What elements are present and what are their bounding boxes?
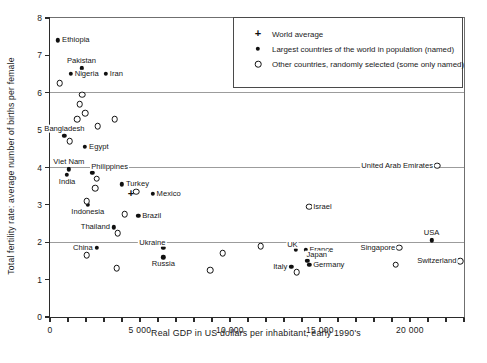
x-tick [229, 318, 230, 322]
y-tick-label: 7 [37, 51, 42, 60]
y-tick [45, 167, 50, 168]
x-tick [355, 318, 356, 322]
data-point [207, 267, 214, 274]
data-point [57, 80, 64, 87]
plus-glyph: + [255, 28, 261, 39]
point-label: Bangladesh [43, 124, 85, 132]
point-label: Japan [305, 251, 328, 259]
data-point [392, 261, 399, 268]
point-label: Iran [109, 70, 124, 78]
point-label: Viet Nam [52, 158, 85, 166]
x-tick [409, 318, 410, 322]
data-point-china [95, 246, 99, 250]
point-label: Turkey [125, 180, 150, 188]
x-tick-label: 0 [47, 326, 52, 335]
legend-label: Largest countries of the world in popula… [272, 45, 454, 54]
x-tick [193, 318, 194, 322]
grid-line [50, 242, 464, 243]
legend-label: Other countries, randomly selected (some… [272, 60, 464, 69]
x-tick [373, 318, 374, 322]
data-point-philippines [90, 171, 94, 175]
point-label: Thailand [80, 223, 111, 231]
data-point [94, 175, 101, 182]
data-point-turkey [120, 182, 124, 186]
y-tick [45, 242, 50, 243]
data-point [67, 138, 74, 145]
x-tick [85, 318, 86, 322]
fertility-gdp-scatter-figure: Total fertility rate: average number of … [0, 0, 487, 363]
data-point-brazil [136, 214, 140, 218]
x-tick [337, 318, 338, 322]
y-tick [45, 55, 50, 56]
x-tick [283, 318, 284, 322]
data-point [133, 188, 140, 195]
data-point [94, 123, 101, 130]
point-label: Ethiopia [61, 36, 90, 44]
x-tick [211, 318, 212, 322]
y-tick-label: 1 [37, 275, 42, 284]
x-tick [67, 318, 68, 322]
x-tick [427, 318, 428, 322]
y-tick [45, 92, 50, 93]
y-axis-title: Total fertility rate: average number of … [6, 57, 16, 274]
point-label: Italy [272, 262, 288, 270]
point-label: UK [286, 240, 299, 248]
data-point-mexico [150, 191, 154, 195]
x-tick [49, 318, 50, 322]
x-tick-label: 5 000 [129, 326, 152, 335]
point-label: Singapore [360, 244, 397, 252]
x-tick-label: 20 000 [396, 326, 424, 335]
grid-line [50, 92, 464, 93]
x-tick [175, 318, 176, 322]
x-tick [247, 318, 248, 322]
legend-row: +World average [234, 27, 462, 41]
data-point-nigeria [68, 72, 72, 76]
y-tick-label: 2 [37, 238, 42, 247]
x-tick [121, 318, 122, 322]
y-tick-label: 6 [37, 89, 42, 98]
point-label: Indonesia [70, 208, 105, 216]
y-tick [45, 279, 50, 280]
point-label: Egypt [88, 143, 109, 151]
point-label: Israel [312, 203, 333, 211]
x-tick [463, 318, 464, 322]
data-point-singapore [396, 245, 403, 252]
point-label: United Arab Emirates [360, 161, 434, 169]
point-label: Philippines [90, 163, 129, 171]
x-tick [265, 318, 266, 322]
data-point [220, 250, 227, 257]
data-point [121, 211, 128, 218]
data-point [293, 269, 300, 276]
y-tick [45, 204, 50, 205]
x-tick [319, 318, 320, 322]
data-point [82, 110, 89, 117]
y-tick [45, 17, 50, 18]
legend-row: Largest countries of the world in popula… [234, 42, 462, 56]
data-point-united-arab-emirates [434, 162, 441, 169]
data-point [257, 243, 264, 250]
point-label: Mexico [156, 189, 182, 197]
data-point-egypt [83, 145, 87, 149]
x-tick [139, 318, 140, 322]
x-tick [157, 318, 158, 322]
x-tick [103, 318, 104, 322]
data-point-viet-nam [67, 167, 71, 171]
data-point [92, 185, 99, 192]
y-tick-label: 3 [37, 201, 42, 210]
filled-circle-glyph [256, 47, 260, 51]
point-label: India [58, 178, 76, 186]
data-point-germany [307, 262, 311, 266]
data-point [84, 198, 91, 205]
y-tick-label: 0 [37, 313, 42, 322]
point-label: Pakistan [66, 57, 97, 65]
data-point [112, 116, 119, 123]
data-point-ethiopia [56, 38, 60, 42]
point-label: Russia [151, 260, 176, 268]
data-point-italy [289, 264, 293, 268]
x-tick [445, 318, 446, 322]
data-point-switzerland [457, 258, 464, 265]
point-label: Switzerland [416, 257, 457, 265]
point-label: Ukraine [138, 239, 166, 247]
y-tick-label: 8 [37, 14, 42, 23]
legend-label: World average [272, 30, 323, 39]
